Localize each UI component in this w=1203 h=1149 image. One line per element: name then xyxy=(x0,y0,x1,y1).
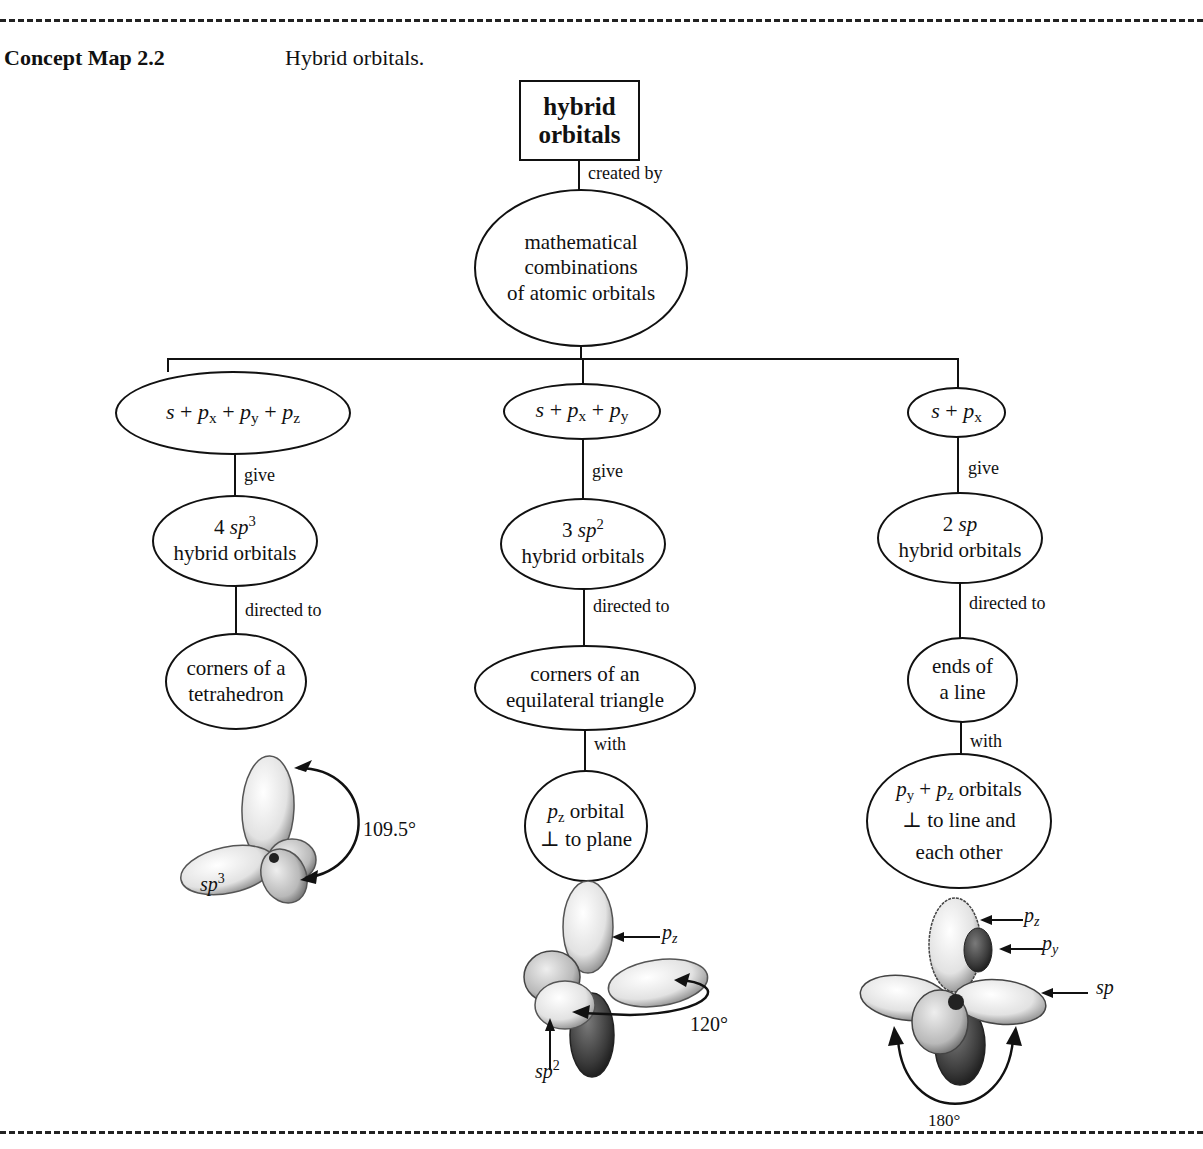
hybrid-count-sp3: 4 sp3 xyxy=(214,515,256,541)
link-directed-sp3: directed to xyxy=(245,600,321,621)
link-give-sp3: give xyxy=(244,465,275,486)
pz-label-sp2: pz xyxy=(662,921,677,947)
connector-sp2-directed xyxy=(583,589,585,646)
angle-label-sp: 180° xyxy=(928,1111,960,1131)
figure-label-sp2: sp2 xyxy=(535,1060,560,1083)
geometry-node-line: ends of a line xyxy=(907,637,1018,723)
extra-line2-sp: ⊥ to line and xyxy=(902,805,1016,837)
geometry-line2-sp3: tetrahedron xyxy=(188,682,284,708)
geometry-line2-sp2: equilateral triangle xyxy=(506,688,664,714)
link-with-sp2: with xyxy=(594,734,626,755)
geometry-line2-sp: a line xyxy=(939,680,985,706)
geometry-line1-sp: ends of xyxy=(932,654,993,680)
combo-node-sp3: s + px + py + pz xyxy=(115,371,351,455)
connector-sp-give xyxy=(957,437,959,493)
connector-sp2-give xyxy=(582,439,584,499)
extra-line2-sp2: ⊥ to plane xyxy=(540,827,632,853)
geometry-node-tetrahedron: corners of a tetrahedron xyxy=(165,633,307,730)
extra-line1-sp: py + pz orbitals xyxy=(896,774,1021,806)
combo-formula-sp: s + px xyxy=(931,398,982,427)
connector-sp3-give xyxy=(234,454,236,496)
root-line2: orbitals xyxy=(539,121,621,149)
extra-node-pz: pz orbital ⊥ to plane xyxy=(524,770,648,882)
link-with-sp: with xyxy=(970,731,1002,752)
angle-label-sp2: 120° xyxy=(690,1013,728,1036)
sp2-orbital-figure xyxy=(510,885,730,1085)
branch-bar xyxy=(167,358,959,360)
hybrid-count-sp2: 3 sp2 xyxy=(562,518,604,544)
link-give-sp: give xyxy=(968,458,999,479)
pz-label-sp: pz xyxy=(1024,904,1039,930)
connector-sp-directed xyxy=(959,583,961,638)
combo-formula-sp2: s + px + py xyxy=(536,397,629,426)
hybrid-node-sp3: 4 sp3 hybrid orbitals xyxy=(152,495,318,587)
sp-orbital-figure xyxy=(850,890,1110,1110)
hybrid-node-sp: 2 sp hybrid orbitals xyxy=(877,492,1043,584)
top-dashed-rule xyxy=(0,19,1203,22)
connector-sp-with xyxy=(960,722,962,754)
method-node: mathematical combinations of atomic orbi… xyxy=(474,189,688,347)
angle-label-sp3: 109.5° xyxy=(363,818,416,841)
geometry-node-triangle: corners of an equilateral triangle xyxy=(474,645,696,731)
py-label-sp: py xyxy=(1042,932,1058,958)
connector-bar-left xyxy=(167,358,169,372)
root-node-hybrid-orbitals: hybrid orbitals xyxy=(519,80,640,161)
method-line2: combinations xyxy=(524,255,637,281)
link-directed-sp2: directed to xyxy=(593,596,669,617)
hybrid-text-sp3: hybrid orbitals xyxy=(173,541,296,567)
root-line1: hybrid xyxy=(543,93,615,121)
hybrid-text-sp: hybrid orbitals xyxy=(898,538,1021,564)
combo-node-sp: s + px xyxy=(907,387,1006,438)
extra-line1-sp2: pz orbital xyxy=(547,799,624,827)
extra-line3-sp: each other xyxy=(916,837,1003,869)
combo-formula-sp3: s + px + py + pz xyxy=(166,399,300,428)
connector-sp3-directed xyxy=(235,586,237,634)
concept-map-caption: Hybrid orbitals. xyxy=(285,45,424,71)
link-directed-sp: directed to xyxy=(969,593,1045,614)
concept-map-number: Concept Map 2.2 xyxy=(4,45,165,71)
method-line3: of atomic orbitals xyxy=(507,281,655,307)
extra-node-py-pz: py + pz orbitals ⊥ to line and each othe… xyxy=(866,753,1052,889)
sp-label: sp xyxy=(1096,976,1114,999)
link-created-by: created by xyxy=(588,163,662,184)
figure-label-sp3: sp3 xyxy=(200,873,225,896)
geometry-line1-sp2: corners of an xyxy=(530,662,640,688)
sp3-orbital-figure xyxy=(140,738,400,908)
connector-sp2-with xyxy=(584,730,586,771)
hybrid-node-sp2: 3 sp2 hybrid orbitals xyxy=(500,498,666,590)
method-line1: mathematical xyxy=(524,230,637,256)
combo-node-sp2: s + px + py xyxy=(503,383,661,440)
bottom-dashed-rule xyxy=(0,1131,1203,1134)
hybrid-count-sp: 2 sp xyxy=(943,512,977,538)
hybrid-text-sp2: hybrid orbitals xyxy=(521,544,644,570)
link-give-sp2: give xyxy=(592,461,623,482)
geometry-line1-sp3: corners of a xyxy=(186,656,285,682)
